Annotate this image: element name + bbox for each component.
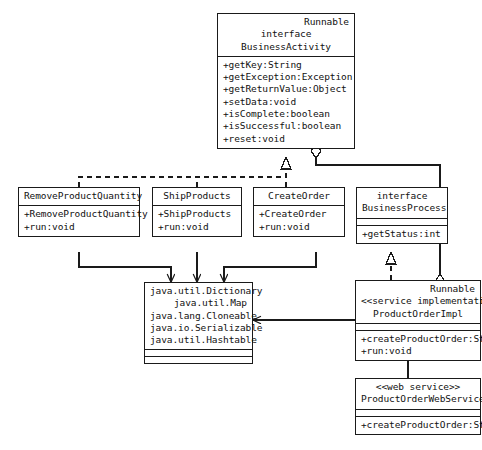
class-box-business-activity[interactable]: Runnable interface BusinessActivity +get… [217, 13, 355, 149]
stereotype-web-service: <<web service>> [361, 381, 475, 393]
class-box-product-order-web-service[interactable]: <<web service>> ProductOrderWebService +… [355, 378, 481, 435]
class-name-ship-products: ShipProducts [158, 190, 236, 202]
class-name-product-order-impl: ProductOrderImpl [361, 308, 475, 320]
operation: +getStatus:int [362, 228, 442, 240]
operation: +run:void [259, 221, 339, 233]
operation: +run:void [24, 221, 134, 233]
type-name: java.util.Dictionary [150, 285, 247, 297]
class-box-create-order[interactable]: CreateOrder +CreateOrder +run:void [253, 187, 345, 237]
keyword-interface: interface [362, 190, 442, 202]
attributes-business-process [357, 218, 447, 225]
operation: +run:void [361, 345, 475, 357]
stereotype-runnable: Runnable [361, 283, 475, 295]
class-header-create-order: CreateOrder [254, 188, 344, 205]
operation: +CreateOrder [259, 208, 339, 220]
operation: +getKey:String [223, 59, 349, 71]
class-header-product-order-web-service: <<web service>> ProductOrderWebService [356, 379, 480, 409]
keyword-interface: interface [223, 28, 349, 40]
operation: +createProductOrder:String [361, 419, 475, 431]
type-name: java.util.Hashtable [150, 334, 247, 346]
class-name-business-activity: BusinessActivity [223, 41, 349, 53]
operations-create-order: +CreateOrder +run:void [254, 205, 344, 236]
class-name-business-process: BusinessProcess [362, 202, 442, 214]
class-box-business-process[interactable]: interface BusinessProcess +getStatus:int [356, 187, 448, 244]
class-header-ship-products: ShipProducts [153, 188, 241, 205]
class-name-create-order: CreateOrder [259, 190, 339, 202]
class-header-product-order-impl: Runnable <<service implementation>> Prod… [356, 281, 480, 323]
operation: +setData:void [223, 96, 349, 108]
operation: +getReturnValue:Object [223, 83, 349, 95]
operations-remove-product-quantity: +RemoveProductQuantity +run:void [19, 205, 139, 236]
class-name-product-order-web-service: ProductOrderWebService [361, 393, 475, 405]
class-header-java-types: java.util.Dictionary java.util.Map java.… [145, 283, 252, 349]
class-header-business-process: interface BusinessProcess [357, 188, 447, 218]
attributes-product-order-impl [356, 323, 480, 330]
operations-java-types [145, 356, 252, 363]
attributes-product-order-web-service [356, 409, 480, 416]
class-name-remove-product-quantity: RemoveProductQuantity [24, 190, 134, 202]
type-name: java.lang.Cloneable [150, 310, 247, 322]
operation: +isSuccessful:boolean [223, 120, 349, 132]
operation: +getException:Exception [223, 71, 349, 83]
class-box-java-types[interactable]: java.util.Dictionary java.util.Map java.… [144, 282, 253, 364]
class-box-remove-product-quantity[interactable]: RemoveProductQuantity +RemoveProductQuan… [18, 187, 140, 237]
class-box-product-order-impl[interactable]: Runnable <<service implementation>> Prod… [355, 280, 481, 361]
edge-realization-to-businessprocess [386, 252, 396, 280]
edge-realization-to-businessactivity [79, 157, 291, 187]
operations-ship-products: +ShipProducts +run:void [153, 205, 241, 236]
operation: +ShipProducts [158, 208, 236, 220]
operation: +run:void [158, 221, 236, 233]
operations-product-order-web-service: +createProductOrder:String [356, 416, 480, 434]
type-name: java.io.Serializable [150, 322, 247, 334]
uml-class-diagram: Runnable interface BusinessActivity +get… [0, 0, 482, 450]
operations-business-activity: +getKey:String +getException:Exception +… [218, 56, 354, 148]
edge-dependency-to-javatypes [79, 252, 316, 282]
stereotype-service-implementation: <<service implementation>> [361, 295, 475, 307]
operation: +createProductOrder:String [361, 333, 475, 345]
attributes-java-types [145, 349, 252, 356]
class-header-remove-product-quantity: RemoveProductQuantity [19, 188, 139, 205]
operation: +reset:void [223, 133, 349, 145]
operation: +isComplete:boolean [223, 108, 349, 120]
class-header-business-activity: Runnable interface BusinessActivity [218, 14, 354, 56]
operations-business-process: +getStatus:int [357, 225, 447, 243]
operations-product-order-impl: +createProductOrder:String +run:void [356, 330, 480, 361]
class-box-ship-products[interactable]: ShipProducts +ShipProducts +run:void [152, 187, 242, 237]
stereotype-runnable: Runnable [223, 16, 349, 28]
operation: +RemoveProductQuantity [24, 208, 134, 220]
type-name: java.util.Map [150, 297, 247, 309]
